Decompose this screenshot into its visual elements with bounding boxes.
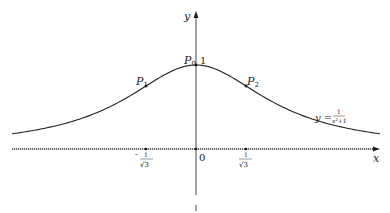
svg-text:y =: y = xyxy=(314,112,332,123)
tick-label-inv-sqrt3: 1 √3 xyxy=(239,151,252,169)
svg-text:√3: √3 xyxy=(140,161,149,169)
p0-value-label: 1 xyxy=(200,55,206,66)
p2-label: P2 xyxy=(246,75,259,89)
svg-text:-: - xyxy=(135,150,138,159)
svg-text:1: 1 xyxy=(144,151,148,158)
equation-label: y = 1 x²+1 xyxy=(314,108,347,124)
y-axis-label: y xyxy=(183,10,191,23)
origin-label: 0 xyxy=(199,152,205,163)
tick-neg-inv-sqrt3 xyxy=(145,148,148,151)
svg-text:1: 1 xyxy=(244,151,248,158)
tick-inv-sqrt3 xyxy=(245,148,248,151)
svg-text:√3: √3 xyxy=(239,161,248,169)
tick-origin xyxy=(195,148,198,151)
function-graph: y x 0 P0 1 P1 P2 y = 1 x²+1 - 1 √3 1 √3 xyxy=(0,0,390,213)
p0-label: P0 xyxy=(183,54,196,68)
p1-label: P1 xyxy=(135,75,148,89)
tick-label-neg-inv-sqrt3: - 1 √3 xyxy=(135,150,153,169)
svg-text:x²+1: x²+1 xyxy=(332,117,347,124)
x-axis-arrow-icon xyxy=(373,147,380,152)
y-axis-arrow-icon xyxy=(194,11,199,18)
svg-text:1: 1 xyxy=(337,108,341,115)
x-axis-label: x xyxy=(373,152,380,165)
